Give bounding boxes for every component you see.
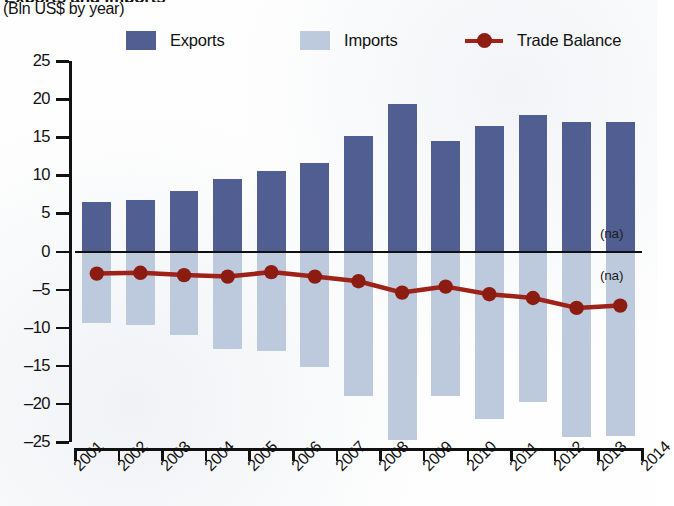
x-axis-tick [248,448,251,461]
y-axis-tick [56,60,69,63]
trade-balance-marker [526,291,540,305]
legend-label-imports: Imports [344,31,398,50]
trade-balance-marker [351,274,365,288]
y-axis-tick-label: 0 [41,242,50,261]
x-axis-tick [641,448,644,461]
y-axis-tick [56,289,69,292]
y-axis-spine [69,61,72,442]
trade-balance-marker [90,266,104,280]
y-axis-tick [56,212,69,215]
y-axis-tick-label: –5 [33,280,50,299]
exports-swatch-icon [126,31,156,50]
x-axis-tick-label: 2005 [244,438,281,475]
x-axis-tick-label: 2006 [288,438,325,475]
x-axis-tick-label: 2008 [375,438,412,475]
trade-balance-marker [613,298,627,312]
trade-balance-marker [395,285,409,299]
trade-balance-marker [264,265,278,279]
x-axis-tick [554,448,557,461]
x-axis-tick-label: 2013 [593,438,630,475]
x-axis-tick-label: 2009 [419,438,456,475]
y-axis-tick-label: 15 [33,127,50,146]
y-axis-tick [56,174,69,177]
x-axis-tick-label: 2010 [463,438,500,475]
y-axis-tick-label: –15 [24,356,50,375]
trade-balance-marker [308,269,322,283]
y-axis-tick [56,403,69,406]
x-axis-tick [205,448,208,461]
x-axis-tick [510,448,513,461]
y-axis-tick-label: 5 [41,203,50,222]
y-axis-tick [56,136,69,139]
y-axis-tick-label: 25 [33,51,50,70]
trade-balance-marker [569,301,583,315]
trade-balance-marker [177,268,191,282]
x-axis-tick-label: 2007 [332,438,369,475]
y-axis-tick [56,327,69,330]
y-axis-tick-label: –20 [24,394,50,413]
x-axis-spine [75,448,642,451]
y-axis-tick [56,365,69,368]
na-annotation: (na) [600,268,623,283]
legend-label-exports: Exports [170,31,225,50]
y-axis-tick [56,98,69,101]
imports-swatch-icon [300,31,330,50]
x-axis-tick [467,448,470,461]
x-axis-tick [597,448,600,461]
y-axis-tick-label: –10 [24,318,50,337]
trade-balance-marker [133,266,147,280]
x-axis-tick [161,448,164,461]
x-axis-tick-label: 2004 [201,438,238,475]
y-axis-tick [56,251,69,254]
trade-balance-marker [439,279,453,293]
y-axis-tick-label: 10 [33,165,50,184]
plot-area [75,61,642,442]
x-axis-tick [292,448,295,461]
y-axis: 2520151050–5–10–15–20–25 [0,55,76,455]
x-axis-tick [423,448,426,461]
x-axis-tick-label: 2012 [550,438,587,475]
chart-subtitle: (Bln US$ by year) [3,0,124,18]
trade-balance-series [75,61,642,442]
y-axis-tick-label: –25 [24,432,50,451]
na-annotation: (na) [600,226,623,241]
trade-balance-marker [482,287,496,301]
legend-item-trade-balance: Trade Balance [465,28,621,52]
x-axis-tick-label: 2014 [637,438,674,475]
x-axis-tick [336,448,339,461]
legend-item-exports: Exports [126,28,225,52]
trade-balance-marker [221,269,235,283]
chart-legend: Exports Imports Trade Balance [126,28,646,52]
y-axis-tick [56,441,69,444]
x-axis-tick [118,448,121,461]
y-axis-tick-label: 20 [33,89,50,108]
legend-label-trade-balance: Trade Balance [517,31,621,50]
x-axis-tick [379,448,382,461]
x-axis-tick-label: 2003 [157,438,194,475]
legend-item-imports: Imports [300,28,398,52]
x-axis-tick-label: 2011 [506,439,542,475]
x-axis-tick-label: 2002 [114,438,151,475]
trade-balance-line-marker-icon [465,31,503,50]
